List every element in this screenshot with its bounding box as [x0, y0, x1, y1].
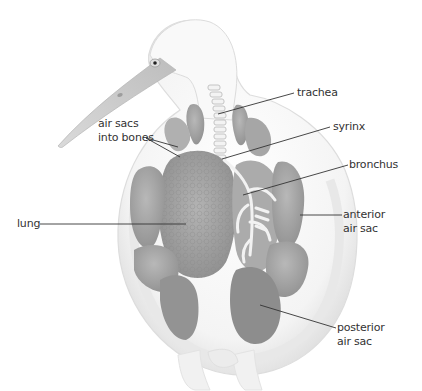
label-anterior-air-sac-line2: air sac [343, 222, 378, 235]
label-syrinx: syrinx [333, 120, 365, 133]
label-trachea: trachea [297, 86, 338, 99]
label-posterior-air-sac-line1: posterior [337, 321, 385, 334]
label-lung: lung [17, 217, 40, 230]
label-bronchus: bronchus [349, 158, 398, 171]
label-posterior-air-sac-line2: air sac [337, 335, 372, 348]
label-air-sacs-into-bones-line2: into bones [98, 131, 154, 144]
label-air-sacs-into-bones-line1: air sacs [98, 117, 138, 130]
label-anterior-air-sac-line1: anterior [343, 208, 385, 221]
